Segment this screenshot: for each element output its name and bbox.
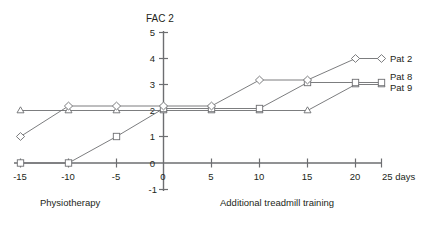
x-tick-label-minus10: -10 bbox=[61, 171, 75, 182]
x-tick-label-15: 15 bbox=[302, 171, 313, 182]
x-tick-label-minus5: -5 bbox=[112, 171, 120, 182]
y-tick-label-minus1: -1 bbox=[149, 184, 157, 195]
y-tick-label-5: 5 bbox=[150, 27, 155, 38]
legend-label-pat-8: Pat 8 bbox=[390, 71, 412, 82]
legend: Pat 2 Pat 8 Pat 9 bbox=[390, 53, 412, 93]
legend-label-pat-2: Pat 2 bbox=[390, 53, 412, 64]
marker-pat-8-day-25 bbox=[378, 79, 384, 85]
phase-label-physiotherapy: Physiotherapy bbox=[40, 197, 100, 208]
x-tick-label-10: 10 bbox=[254, 171, 265, 182]
y-tick-label-4: 4 bbox=[150, 53, 155, 64]
x-tick-label-25-days: 25 days bbox=[382, 171, 416, 182]
marker-pat-8-day-minus10 bbox=[65, 160, 71, 166]
y-tick-label-1: 1 bbox=[150, 131, 155, 142]
marker-pat-8-day-minus15 bbox=[17, 160, 23, 166]
y-tick-label-3: 3 bbox=[150, 79, 155, 90]
marker-pat-8-day-10 bbox=[256, 105, 262, 111]
fac2-recovery-line-chart: 5 4 3 2 1 0 -1 FAC 2 -15 -10 -5 0 5 10 1… bbox=[0, 0, 423, 225]
x-tick-label-minus15: -15 bbox=[13, 171, 27, 182]
marker-pat-8-day-20 bbox=[352, 79, 358, 85]
x-tick-label-5: 5 bbox=[208, 171, 213, 182]
x-tick-label-0: 0 bbox=[160, 171, 165, 182]
phase-label-treadmill: Additional treadmill training bbox=[220, 197, 334, 208]
marker-pat-8-day-minus5 bbox=[113, 133, 119, 139]
y-tick-label-0: 0 bbox=[150, 158, 155, 169]
legend-label-pat-9: Pat 9 bbox=[390, 82, 412, 93]
y-axis-title: FAC 2 bbox=[146, 13, 174, 24]
x-tick-label-20: 20 bbox=[350, 171, 361, 182]
